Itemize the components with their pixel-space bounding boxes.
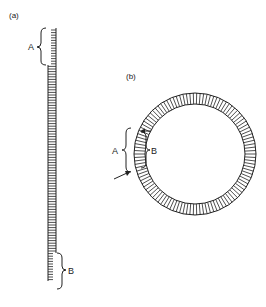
arrow-upper-head [140, 129, 145, 134]
panel-a: (a) A B [9, 11, 74, 289]
ring-brace-a-label: A [112, 146, 118, 156]
panel-b: (b) A B [112, 72, 256, 215]
brace-b-label: B [68, 266, 74, 276]
panel-a-label: (a) [9, 11, 19, 20]
brace-b-icon [57, 253, 66, 289]
panel-b-label: (b) [126, 72, 136, 81]
ring-inner [145, 104, 245, 204]
diagram-canvas: (a) A B (b) A B [0, 0, 266, 307]
brace-a-icon [37, 28, 46, 65]
brace-a-label: A [28, 42, 34, 52]
ring-brace-b-label: B [151, 146, 157, 156]
ring-brace-a-icon [122, 128, 131, 172]
strip-striations [48, 30, 56, 280]
arrow-lower-icon [114, 173, 127, 179]
